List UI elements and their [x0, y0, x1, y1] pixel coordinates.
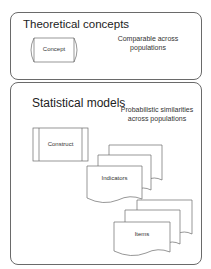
concept-label: Concept	[34, 46, 74, 52]
indicators-stack	[87, 145, 162, 203]
diagram-shapes	[0, 0, 211, 269]
items-stack	[114, 200, 192, 256]
items-label: Items	[114, 231, 170, 237]
construct-label: Construct	[39, 141, 82, 147]
indicators-label: Indicators	[87, 175, 142, 181]
